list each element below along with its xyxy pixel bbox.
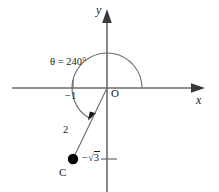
x-axis-label: x: [196, 94, 201, 106]
radical-sign: √: [88, 152, 94, 163]
angle-diagram-figure: y x O θ = 240° −1 −√3 2 C: [0, 0, 219, 192]
tick-label-neg-sqrt3: −√3: [82, 152, 100, 164]
point-c-label: C: [59, 167, 66, 178]
radicand: 3: [94, 151, 100, 163]
origin-label: O: [111, 88, 119, 99]
diagram-canvas: [0, 0, 219, 192]
y-axis-arrowhead: [102, 9, 112, 23]
point-c-marker: [68, 154, 78, 164]
terminal-ray-segment: [73, 88, 107, 159]
x-axis-arrowhead: [191, 83, 205, 93]
angle-measure-label: θ = 240°: [50, 57, 86, 68]
y-axis-label: y: [96, 4, 101, 16]
tick-label-neg-one: −1: [65, 91, 76, 102]
segment-length-label: 2: [63, 125, 68, 136]
neg-sqrt3-radical-group: √3: [88, 152, 100, 164]
